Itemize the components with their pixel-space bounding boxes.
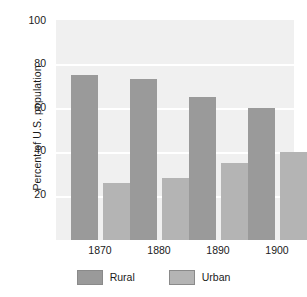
- bar-rural-1880: [130, 79, 157, 240]
- legend-label-urban: Urban: [202, 271, 231, 283]
- bar-urban-1890: [221, 163, 248, 240]
- legend-swatch-urban-icon: [169, 270, 195, 285]
- y-tick-label-80: 80: [0, 57, 46, 69]
- y-tick-label-40: 40: [0, 144, 46, 156]
- bar-rural-1890: [189, 97, 216, 240]
- legend-entry-urban: Urban: [169, 270, 231, 285]
- x-axis-tick-labels: 1870 1880 1890 1900: [56, 244, 294, 260]
- bar-urban-1870: [103, 183, 130, 240]
- chart-legend: Rural Urban: [0, 266, 307, 288]
- legend-swatch-rural-icon: [77, 270, 103, 285]
- x-tick-label-1900: 1900: [242, 244, 307, 256]
- gridline-80: [56, 64, 294, 66]
- bar-urban-1900: [280, 152, 307, 240]
- y-tick-label-100: 100: [0, 14, 46, 26]
- bar-urban-1880: [162, 178, 189, 240]
- bar-rural-1870: [71, 75, 98, 240]
- plot-area: [56, 20, 294, 240]
- bar-chart: Percent of U.S. population 100 80 60 40 …: [0, 0, 307, 297]
- legend-label-rural: Rural: [110, 271, 135, 283]
- legend-entry-rural: Rural: [77, 270, 135, 285]
- bar-rural-1900: [248, 108, 275, 240]
- y-axis-tick-labels: 100 80 60 40 20: [0, 0, 52, 297]
- y-tick-label-20: 20: [0, 188, 46, 200]
- y-tick-label-60: 60: [0, 101, 46, 113]
